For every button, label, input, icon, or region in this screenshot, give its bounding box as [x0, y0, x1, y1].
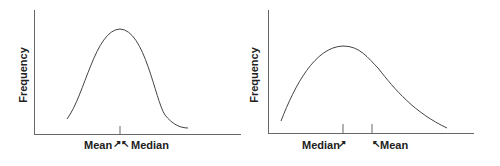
y-axis-label: Frequency	[248, 45, 260, 105]
median-label: Median	[302, 139, 340, 151]
right-chart: Frequency Median ↗ ↖ Mean	[250, 0, 500, 166]
mean-arrow-icon: ↗	[113, 138, 121, 150]
left-chart: Frequency Mean ↗ ↖ Median	[0, 0, 250, 166]
mean-arrow-icon: ↖	[372, 138, 380, 150]
distribution-curve	[67, 29, 188, 128]
y-axis-label: Frequency	[17, 45, 29, 105]
median-arrow-icon: ↗	[338, 138, 346, 150]
median-arrow-icon: ↖	[121, 138, 129, 150]
median-label: Median	[131, 139, 169, 151]
mean-label: Mean	[84, 139, 112, 151]
distribution-curve	[281, 46, 447, 128]
mean-label: Mean	[380, 139, 408, 151]
